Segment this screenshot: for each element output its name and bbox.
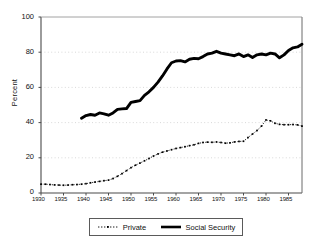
legend-swatch-dotted (97, 223, 119, 231)
legend-label-private: Private (123, 223, 146, 232)
legend-item-social-security[interactable]: Social Security (160, 223, 236, 232)
x-tick-label: 1930 (32, 196, 45, 202)
x-tick-label: 1975 (235, 196, 248, 202)
series-lines (40, 44, 303, 186)
chart-legend[interactable]: Private Social Security (89, 218, 243, 236)
x-tick-label: 1965 (190, 196, 203, 202)
x-tick-label: 1985 (280, 196, 293, 202)
axis-lines (41, 17, 302, 193)
x-tick-label: 1980 (257, 196, 270, 202)
legend-swatch-solid (160, 223, 182, 231)
gridlines (41, 52, 302, 158)
x-tick-label: 1955 (145, 196, 158, 202)
plot-area (0, 0, 320, 246)
x-tick-label: 1935 (55, 196, 68, 202)
legend-label-social-security: Social Security (186, 223, 236, 232)
x-tick-label: 1940 (77, 196, 90, 202)
chart-container: Percent 100 80 60 40 20 0 19301935194019… (0, 0, 320, 246)
x-tick-label: 1970 (212, 196, 225, 202)
x-tick-label: 1945 (100, 196, 113, 202)
legend-item-private[interactable]: Private (97, 223, 146, 232)
x-tick-label: 1960 (167, 196, 180, 202)
x-tick-label: 1950 (122, 196, 135, 202)
